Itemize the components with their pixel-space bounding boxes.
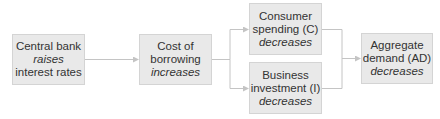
node-central-bank-line3: interest rates (15, 66, 81, 79)
node-business-line3: decreases (259, 95, 312, 108)
node-consumer-line1: Consumer (259, 10, 312, 23)
node-aggregate-demand: Aggregate demand (AD) decreases (361, 33, 433, 84)
node-cost-line3: increases (151, 66, 200, 79)
node-central-bank-line2: raises (33, 53, 64, 66)
node-cost-of-borrowing: Cost of borrowing increases (139, 34, 212, 85)
node-central-bank-line1: Central bank (16, 40, 81, 53)
node-ad-line1: Aggregate (370, 39, 423, 52)
node-ad-line3: decreases (370, 65, 423, 78)
node-ad-line2: demand (AD) (363, 52, 431, 65)
node-business-line2: investment (I) (251, 82, 321, 95)
node-consumer-line3: decreases (259, 36, 312, 49)
arrow-cost-to-i (230, 60, 248, 89)
node-business-line1: Business (262, 69, 309, 82)
node-cost-line2: borrowing (150, 53, 201, 66)
node-central-bank: Central bank raises interest rates (12, 34, 85, 85)
arrow-cost-to-c (212, 30, 248, 60)
node-cost-line1: Cost of (157, 40, 193, 53)
node-consumer-line2: spending (C) (253, 23, 319, 36)
node-consumer-spending: Consumer spending (C) decreases (249, 3, 322, 55)
arrow-c-to-ad (322, 30, 342, 89)
node-business-investment: Business investment (I) decreases (249, 62, 322, 114)
